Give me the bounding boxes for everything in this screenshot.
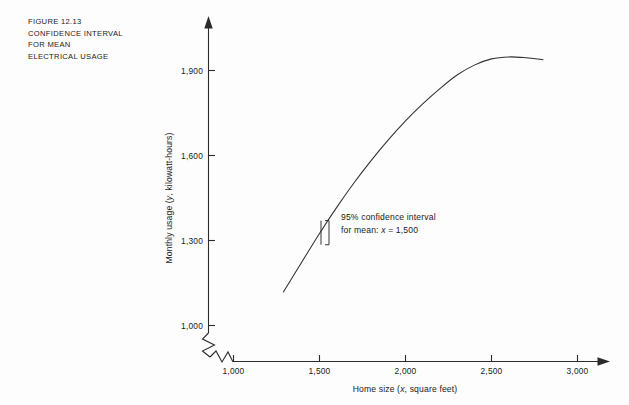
- annotation-variable: x: [381, 225, 385, 235]
- x-axis-title-suffix: , square feet): [405, 384, 458, 394]
- x-tick-label-1000: 1,000: [223, 366, 245, 376]
- x-tick-label-2500: 2,500: [481, 366, 503, 376]
- x-axis-title-prefix: Home size (: [353, 384, 401, 394]
- annotation-line-2: for mean: x=1,500: [341, 224, 436, 237]
- y-axis-title-prefix: Monthly usage (: [164, 200, 174, 263]
- annotation-value: 1,500: [396, 225, 418, 235]
- confidence-interval-annotation: 95% confidence interval for mean: x=1,50…: [341, 211, 436, 237]
- x-tick-label-2000: 2,000: [395, 366, 417, 376]
- y-tick-label-1000: 1,000: [181, 321, 203, 331]
- y-tick-label-1300: 1,300: [181, 236, 203, 246]
- annotation-line-1: 95% confidence interval: [341, 211, 436, 224]
- y-tick-label-1900: 1,900: [181, 66, 203, 76]
- y-axis-title: Monthly usage (y, kilowatt-hours): [164, 132, 174, 263]
- x-axis-arrow-icon: [598, 357, 611, 366]
- x-axis-break-icon: [210, 351, 233, 362]
- x-tick-label-1500: 1,500: [309, 366, 331, 376]
- y-axis-title-suffix: , kilowatt-hours): [164, 132, 174, 195]
- y-axis-break-icon: [203, 333, 215, 357]
- y-axis-arrow-icon: [204, 16, 212, 29]
- y-tick-label-1600: 1,600: [181, 151, 203, 161]
- figure-page: FIGURE 12.13 CONFIDENCE INTERVAL FOR MEA…: [0, 0, 629, 405]
- annotation-equals: =: [386, 225, 396, 235]
- annotation-line-2-prefix: for mean:: [341, 225, 381, 235]
- x-axis-title: Home size (x, square feet): [353, 384, 458, 394]
- x-tick-label-3000: 3,000: [567, 366, 589, 376]
- chart-plot-area: 1,900 1,600 1,300 1,000 1,000 1,500 2,00…: [0, 0, 629, 405]
- regression-curve: [283, 57, 543, 292]
